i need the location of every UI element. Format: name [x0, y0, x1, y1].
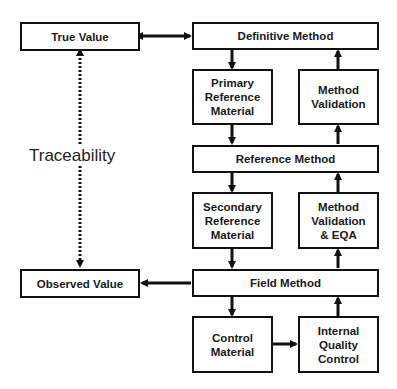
node-true-value: True Value	[20, 22, 140, 51]
node-internal-quality-control: Internal Quality Control	[298, 316, 379, 373]
traceability-label: Traceability	[27, 146, 117, 166]
node-reference-method: Reference Method	[192, 145, 379, 173]
node-method-validation-eqa: Method Validation & EQA	[298, 192, 379, 249]
node-field-method: Field Method	[192, 269, 379, 297]
node-control-material: Control Material	[192, 316, 273, 373]
node-secondary-reference-material: Secondary Reference Material	[192, 192, 273, 249]
node-definitive-method: Definitive Method	[192, 22, 379, 50]
node-primary-reference-material: Primary Reference Material	[192, 69, 273, 125]
node-observed-value: Observed Value	[20, 269, 140, 298]
node-method-validation: Method Validation	[298, 69, 379, 125]
